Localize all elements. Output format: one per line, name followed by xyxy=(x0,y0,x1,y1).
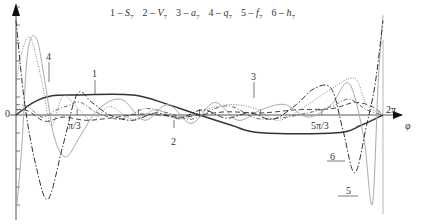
series-line-6 xyxy=(16,21,383,200)
curve-label-5: 5 xyxy=(346,185,351,196)
tick-label-2pi: 2π xyxy=(386,104,396,115)
legend-item-2: 2 – V7 xyxy=(143,7,168,18)
legend-item-4: 4 – q7 xyxy=(209,7,233,18)
x-axis-label: φ xyxy=(405,120,411,131)
y-axis-arrow xyxy=(12,3,20,16)
legend-item-1: 1 – S7 xyxy=(110,7,134,18)
tick-label-pi-3: π/3 xyxy=(68,120,81,131)
curve-label-4: 4 xyxy=(46,51,51,62)
legend: 1 – S72 – V73 – a74 – q75 – f76 – h7 xyxy=(110,7,304,21)
legend-item-5: 5 – f7 xyxy=(241,7,262,18)
chart-plot xyxy=(0,0,422,224)
curve-label-2: 2 xyxy=(171,136,176,147)
curve-label-3: 3 xyxy=(251,71,256,82)
origin-label: 0 xyxy=(5,108,10,119)
legend-item-6: 6 – h7 xyxy=(271,7,295,18)
legend-item-3: 3 – a7 xyxy=(176,7,200,18)
tick-label-5pi-3: 5π/3 xyxy=(311,120,329,131)
curve-label-1: 1 xyxy=(92,68,97,79)
axes xyxy=(10,3,402,220)
curve-label-6: 6 xyxy=(330,151,335,162)
